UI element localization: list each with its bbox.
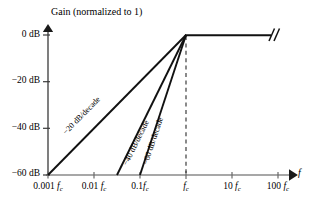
x-tick-lead-2: 0.1 (131, 181, 143, 191)
x-tick-sub-2: c (146, 185, 149, 193)
x-tick-label-100fc: 100 fc (252, 181, 304, 193)
page-bleed-strip (0, 196, 313, 208)
x-tick-sub-5: c (286, 185, 289, 193)
x-tick-label-fc: fc (166, 181, 206, 193)
x-tick-lead-5: 100 (267, 181, 284, 191)
y-tick-label-minus40: −40 dB (0, 122, 40, 132)
x-tick-label-001fc: 0.01 fc (68, 181, 120, 193)
x-tick-sub-4: c (238, 185, 241, 193)
x-tick-lead-0: 0.001 (33, 181, 57, 191)
y-tick-label-minus60: −60 dB (0, 168, 40, 178)
plot-canvas (0, 0, 313, 208)
plot-title: Gain (normalized to 1) (51, 6, 142, 17)
x-tick-sub-3: c (186, 185, 189, 193)
x-tick-label-10fc: 10 fc (208, 181, 256, 193)
slope-line-20db (48, 35, 186, 175)
x-tick-lead-1: 0.01 (82, 181, 101, 191)
x-tick-lead-4: 10 (223, 181, 235, 191)
bode-plot-figure: Gain (normalized to 1) 0 dB −20 dB −40 d… (0, 0, 313, 208)
x-tick-sub-1: c (103, 185, 106, 193)
y-tick-marks (43, 35, 50, 175)
x-tick-sub-0: c (60, 185, 63, 193)
x-tick-label-01fc: 0.1fc (116, 181, 164, 193)
y-tick-label-0: 0 dB (0, 29, 40, 39)
x-axis-name: f (298, 167, 301, 178)
y-tick-label-minus20: −20 dB (0, 75, 40, 85)
